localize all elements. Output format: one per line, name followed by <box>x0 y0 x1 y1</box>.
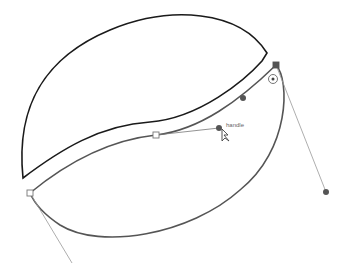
handle-tooltip-label: handle <box>226 122 245 128</box>
upper-shape-path[interactable] <box>22 15 267 178</box>
target-point-icon <box>269 75 278 84</box>
handle-line-top-right <box>276 65 326 192</box>
handle-point-middle[interactable] <box>216 125 222 131</box>
anchor-point-middle[interactable] <box>153 132 159 138</box>
direct-selection-arrow-icon <box>222 129 229 141</box>
vector-canvas[interactable]: handle <box>0 0 347 273</box>
anchor-point-left[interactable] <box>27 190 33 196</box>
handle-line-middle <box>156 128 219 135</box>
anchor-point-top-selected[interactable] <box>273 62 279 68</box>
path-point-mid-upper[interactable] <box>240 95 246 101</box>
handle-point-right[interactable] <box>323 189 329 195</box>
lower-shape-path[interactable] <box>30 65 284 237</box>
